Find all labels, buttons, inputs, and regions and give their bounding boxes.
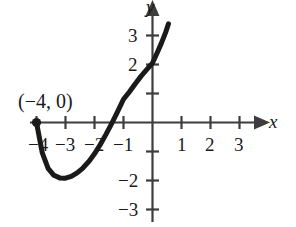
y-tick-label-pos2: 2 (128, 55, 138, 74)
x-tick-label-neg3: −3 (55, 135, 75, 154)
point-annotation-neg4-0: (−4, 0) (18, 90, 73, 113)
x-tick-label-neg1: −1 (113, 135, 133, 154)
endpoint-point-marker (32, 118, 41, 127)
x-tick-label-neg4: −4 (28, 135, 48, 154)
y-tick-label-neg2: −2 (118, 171, 138, 190)
coordinate-plane-svg (0, 0, 296, 227)
x-axis-label: x (269, 111, 277, 133)
x-tick-label-pos2: 2 (205, 135, 215, 154)
y-tick-label-pos3: 3 (128, 26, 138, 45)
y-tick-label-neg3: −3 (118, 200, 138, 219)
x-tick-label-pos1: 1 (177, 135, 187, 154)
y-axis-label: y (146, 0, 154, 18)
x-tick-label-pos3: 3 (234, 135, 244, 154)
x-tick-label-neg2: −2 (84, 135, 104, 154)
graph-figure: −4 −3 −2 −1 1 2 3 3 2 −2 −3 x y (−4, 0) (0, 0, 296, 227)
